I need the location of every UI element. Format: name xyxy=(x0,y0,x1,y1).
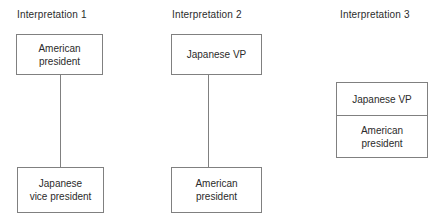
node-label: Japanese VP xyxy=(184,48,250,61)
column-heading-interpretation-1: Interpretation 1 xyxy=(17,9,87,21)
node-interpretation-2-bottom: American president xyxy=(171,167,262,213)
diagram-canvas: Interpretation 1 American president Japa… xyxy=(0,0,441,220)
node-label: American president xyxy=(358,124,406,150)
node-interpretation-1-top: American president xyxy=(16,34,103,75)
node-label: Japanese vice president xyxy=(27,177,95,203)
column-heading-interpretation-2: Interpretation 2 xyxy=(172,9,242,21)
node-interpretation-3-top: Japanese VP xyxy=(337,83,427,115)
connector-interpretation-2 xyxy=(208,74,209,167)
node-interpretation-2-top: Japanese VP xyxy=(171,34,262,75)
node-stack-interpretation-3: Japanese VP American president xyxy=(336,82,428,158)
node-label: Japanese VP xyxy=(349,93,415,106)
connector-interpretation-1 xyxy=(60,74,61,167)
column-heading-interpretation-3: Interpretation 3 xyxy=(340,9,410,21)
node-label: American president xyxy=(35,42,83,68)
node-interpretation-1-bottom: Japanese vice president xyxy=(17,167,104,213)
node-interpretation-3-bottom: American president xyxy=(337,115,427,157)
node-label: American president xyxy=(192,177,240,203)
